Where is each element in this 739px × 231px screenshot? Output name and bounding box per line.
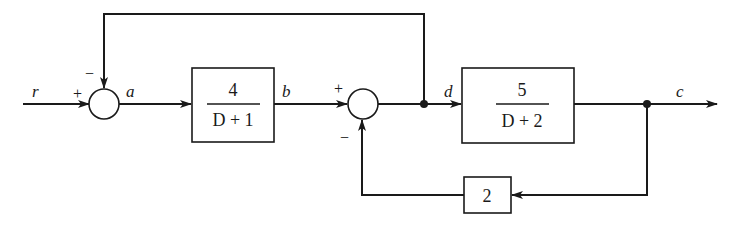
signal-r-label: r [32, 82, 39, 101]
transfer-block-1: 4 D + 1 [192, 68, 274, 142]
sum1-minus-sign: − [85, 65, 94, 82]
signal-c-label: c [676, 82, 684, 101]
signal-b-label: b [282, 82, 291, 101]
signal-d-label: d [444, 82, 453, 101]
transfer-block-2: 5 D + 2 [462, 68, 574, 143]
feedback-gain-value: 2 [483, 186, 492, 206]
block1-denominator: D + 1 [212, 110, 253, 130]
sum2-plus-sign: + [334, 80, 343, 97]
summing-junction-2 [348, 89, 378, 119]
inner-feedback-path-to-sum2 [362, 120, 464, 195]
sum2-minus-sign: − [340, 129, 349, 146]
feedback-gain-block: 2 [464, 177, 511, 213]
block2-numerator: 5 [518, 80, 527, 100]
summing-junction-1 [89, 89, 119, 119]
signal-a-label: a [126, 82, 135, 101]
sum1-plus-sign: + [73, 85, 82, 102]
block2-denominator: D + 2 [501, 111, 542, 131]
block-diagram: r + − a 4 D + 1 b + − d 5 D + 2 c 2 [0, 0, 739, 231]
block1-numerator: 4 [229, 80, 238, 100]
